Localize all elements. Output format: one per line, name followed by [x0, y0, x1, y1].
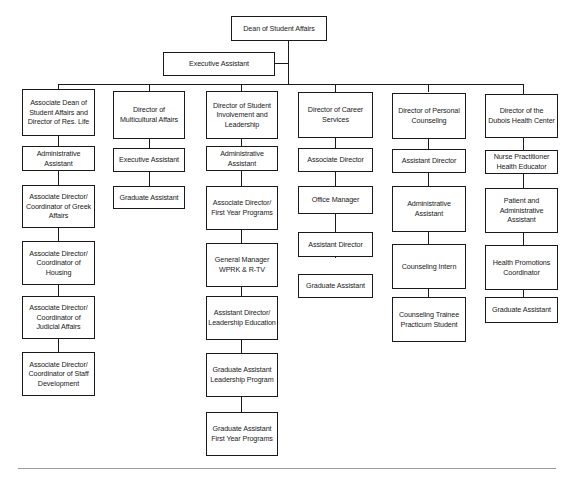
connector-line	[274, 63, 288, 64]
box-label: Leadership Education	[208, 318, 276, 328]
box-label: Director of the	[488, 106, 555, 116]
box-label: Associate Director/	[26, 192, 91, 202]
connector-line	[58, 84, 524, 85]
box-label: Assistant	[37, 159, 81, 169]
connector-line	[428, 84, 429, 92]
box-label: General Manager	[215, 255, 269, 265]
personal-counseling-head-box: Director of PersonalCounseling	[392, 93, 466, 139]
box-label: Health Promotions	[493, 258, 550, 268]
box-label: First Year Programs	[211, 208, 273, 218]
box-label: Practicum Student	[399, 320, 459, 330]
sil-admin-assistant-box: AdministrativeAssistant	[206, 146, 278, 171]
box-label: Dubois Health Center	[488, 116, 555, 126]
box-label: Judicial Affairs	[29, 322, 87, 332]
counseling-intern-box: Counseling Intern	[392, 244, 466, 289]
box-label: Administrative	[220, 149, 264, 159]
box-label: Counseling Intern	[402, 262, 457, 272]
box-label: Coordinator	[493, 268, 550, 278]
multicultural-head-box: Director ofMulticultural Affairs	[113, 91, 185, 139]
patient-admin-assistant-box: Patient andAdministrativeAssistant	[485, 188, 558, 233]
connector-line	[149, 84, 150, 91]
career-grad-assistant-box: Graduate Assistant	[298, 274, 373, 298]
dean-box: Dean of Student Affairs	[231, 16, 327, 41]
connector-line	[241, 84, 242, 91]
box-label: Associate Director/	[211, 198, 273, 208]
box-label: Executive Assistant	[119, 155, 179, 165]
connector-line	[288, 40, 289, 85]
wprk-general-manager-box: General ManagerWPRK & R-TV	[206, 243, 278, 287]
box-label: Associate Director/	[29, 249, 87, 259]
housing-box: Associate Director/Coordinator ofHousing	[22, 241, 95, 285]
box-label: Counseling	[398, 116, 460, 126]
box-label: Services	[308, 115, 363, 125]
career-associate-director-box: Associate Director	[298, 148, 373, 172]
box-label: Graduate Assistant	[210, 365, 273, 375]
connector-line	[523, 84, 524, 94]
box-label: Assistant	[220, 159, 264, 169]
box-label: Administrative	[37, 149, 81, 159]
multicultural-exec-assistant-box: Executive Assistant	[113, 148, 185, 172]
box-label: Assistant	[500, 215, 544, 225]
counseling-assistant-director-box: Assistant Director	[392, 149, 466, 173]
footer-divider	[18, 468, 556, 469]
leadership-education-box: Assistant Director/Leadership Education	[206, 296, 278, 340]
box-label: Assistant Director/	[208, 308, 276, 318]
counseling-admin-assistant-box: AdministrativeAssistant	[392, 186, 466, 232]
box-label: Graduate Assistant	[492, 305, 551, 315]
career-assistant-director-box: Assistant Director	[298, 232, 373, 257]
res-life-head-box: Associate Dean ofStudent Affairs andDire…	[22, 89, 95, 136]
judicial-affairs-box: Associate Director/Coordinator ofJudicia…	[22, 296, 95, 339]
box-label: Counseling Trainee	[399, 310, 459, 320]
box-label: Administrative	[500, 206, 544, 216]
student-involvement-head-box: Director of StudentInvolvement andLeader…	[206, 91, 278, 139]
box-label: Involvement and	[213, 110, 271, 120]
box-label: Director of	[120, 105, 178, 115]
box-label: Patient and	[500, 196, 544, 206]
career-office-manager-box: Office Manager	[298, 186, 373, 214]
box-label: Graduate Assistant	[306, 281, 365, 291]
box-label: Housing	[29, 268, 87, 278]
health-grad-assistant-box: Graduate Assistant	[485, 297, 558, 323]
box-label: Associate Director	[307, 155, 364, 165]
box-label: Executive Assistant	[189, 59, 249, 69]
staff-development-box: Associate Director/Coordinator of StaffD…	[22, 352, 95, 396]
box-label: Leadership	[213, 120, 271, 130]
box-label: Administrative	[407, 199, 451, 209]
box-label: Office Manager	[312, 195, 360, 205]
health-center-head-box: Director of theDubois Health Center	[485, 94, 558, 138]
box-label: Associate Director/	[28, 360, 88, 370]
box-label: Coordinator of	[29, 313, 87, 323]
box-label: Affairs	[26, 211, 91, 221]
res-life-admin-assistant-box: AdministrativeAssistant	[22, 146, 95, 171]
box-label: Associate Director/	[29, 303, 87, 313]
box-label: WPRK & R-TV	[215, 265, 269, 275]
org-chart: Dean of Student Affairs Executive Assist…	[0, 0, 571, 481]
box-label: Assistant Director	[308, 240, 363, 250]
connector-line	[335, 84, 336, 92]
box-label: Health Educator	[494, 162, 550, 172]
multicultural-grad-assistant-box: Graduate Assistant	[113, 186, 185, 209]
box-label: Dean of Student Affairs	[243, 24, 315, 34]
ga-leadership-program-box: Graduate AssistantLeadership Program	[206, 353, 278, 397]
career-services-head-box: Director of CareerServices	[298, 92, 373, 138]
box-label: Nurse Practitioner	[494, 152, 550, 162]
box-label: Assistant Director	[402, 156, 457, 166]
box-label: Student Affairs and	[28, 108, 89, 118]
box-label: Director of Student	[213, 101, 271, 111]
first-year-programs-box: Associate Director/First Year Programs	[206, 186, 278, 230]
box-label: Graduate Assistant	[211, 424, 273, 434]
box-label: Leadership Program	[210, 375, 273, 385]
box-label: Development	[28, 379, 88, 389]
box-label: Director of Career	[308, 105, 363, 115]
box-label: Associate Dean of	[28, 98, 89, 108]
nurse-practitioner-box: Nurse PractitionerHealth Educator	[485, 150, 558, 174]
counseling-trainee-box: Counseling TraineePracticum Student	[392, 297, 466, 342]
box-label: Coordinator of Greek	[26, 202, 91, 212]
box-label: Coordinator of Staff	[28, 369, 88, 379]
ga-first-year-programs-box: Graduate AssistantFirst Year Programs	[206, 412, 278, 456]
health-promotions-box: Health PromotionsCoordinator	[485, 245, 558, 290]
box-label: Multicultural Affairs	[120, 115, 178, 125]
box-label: First Year Programs	[211, 434, 273, 444]
box-label: Director of Res. Life	[28, 117, 89, 127]
box-label: Coordinator of	[29, 258, 87, 268]
